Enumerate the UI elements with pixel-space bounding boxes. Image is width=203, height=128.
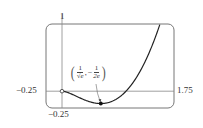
fraction-x: 1 √e — [77, 65, 84, 80]
minus-sign: − — [88, 68, 93, 77]
y-bottom-label: −0.25 — [48, 110, 69, 119]
minimum-annotation: ( 1 √e , − 1 2e ) — [70, 64, 106, 81]
comma: , — [85, 68, 87, 77]
annotation-arrow — [96, 84, 100, 101]
x-left-label: −0.25 — [16, 86, 37, 95]
y-top-label: 1 — [60, 12, 65, 21]
minimum-point — [99, 102, 103, 106]
close-paren: ) — [102, 64, 106, 81]
plot-frame — [46, 24, 174, 108]
open-point-origin — [60, 89, 64, 93]
x-right-label: 1.75 — [177, 86, 193, 95]
open-paren: ( — [71, 64, 75, 81]
fraction-y: 1 2e — [93, 65, 100, 80]
